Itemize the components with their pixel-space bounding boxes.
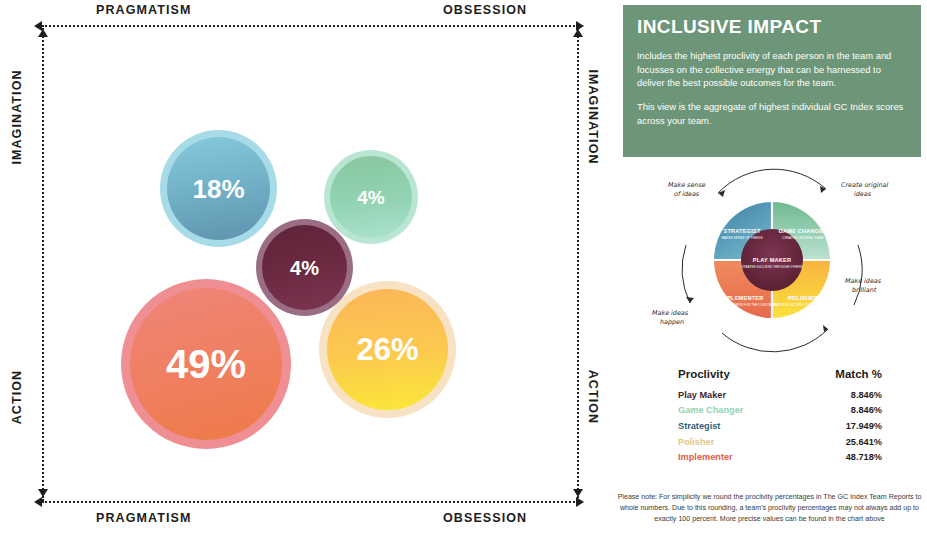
wheel-label-game-changer: GAME CHANGER — [778, 228, 827, 234]
row-match-game-changer: 8.846% — [794, 403, 888, 419]
table-row: Implementer 48.718% — [678, 449, 888, 465]
bubble-game-changer[interactable]: 4% — [324, 150, 418, 244]
arrowhead-left-icon — [686, 297, 694, 303]
column-header-proclivity: Proclivity — [678, 368, 794, 387]
arrow-top-right-vertical-icon — [573, 29, 583, 37]
axis-label-top-left: PRAGMATISM — [96, 3, 192, 17]
wheel-sub-play-maker: CREATES SUCCESS THROUGH OTHERS — [741, 265, 803, 269]
bubble-polisher[interactable]: 26% — [319, 281, 456, 418]
right-sidebar: INCLUSIVE IMPACT Includes the highest pr… — [612, 0, 927, 538]
proclivity-match-table: Proclivity Match % Play Maker 8.846% Gam… — [678, 368, 888, 465]
frame-right-dotted-line — [577, 25, 579, 501]
row-name-strategist: Strategist — [678, 418, 794, 434]
arrowhead-top-left-icon — [718, 190, 725, 197]
arrow-bottom-right-horizontal-icon — [576, 497, 584, 507]
bubble-strategist[interactable]: 18% — [160, 130, 277, 247]
bubble-quadrant-chart: PRAGMATISM OBSESSION PRAGMATISM OBSESSIO… — [0, 0, 610, 538]
gc-index-team-report-page: PRAGMATISM OBSESSION PRAGMATISM OBSESSIO… — [0, 0, 927, 538]
wheel-label-play-maker: PLAY MAKER — [753, 257, 791, 263]
callout-top-left-line1: Make sense — [668, 181, 706, 189]
table-row: Game Changer 8.846% — [678, 403, 888, 419]
row-match-play-maker: 8.846% — [794, 387, 888, 403]
wheel-sub-polisher: CREATES A CULTURE OF BEING PROUD OF — [769, 303, 836, 307]
bubble-implementer-label: 49% — [166, 344, 246, 384]
arrow-top-left-vertical-icon — [38, 29, 48, 37]
callout-top-right-line2: ideas — [854, 190, 872, 198]
callout-bottom-left-line2: happen — [660, 318, 684, 326]
wheel-label-implementer: IMPLEMENTER — [721, 295, 764, 301]
axis-label-right-top: IMAGINATION — [586, 67, 600, 167]
row-name-play-maker: Play Maker — [678, 387, 794, 403]
bubble-play-maker-label: 4% — [290, 258, 319, 278]
gc-index-wheel-diagram: STRATEGIST MAKES SENSE OF THINGS GAME CH… — [626, 163, 916, 355]
wheel-label-polisher: POLISHER — [788, 295, 818, 301]
arrow-bottom-right-vertical-icon — [573, 489, 583, 497]
arc-top — [718, 169, 826, 193]
bubble-play-maker[interactable]: 4% — [256, 219, 353, 316]
row-match-strategist: 17.949% — [794, 418, 888, 434]
table-row: Play Maker 8.846% — [678, 387, 888, 403]
axis-label-left-top: IMAGINATION — [10, 67, 24, 167]
table-row: Strategist 17.949% — [678, 418, 888, 434]
frame-top-dotted-line — [42, 25, 578, 27]
arc-right — [854, 245, 862, 305]
callout-bottom-left-line1: Make ideas — [652, 309, 689, 317]
callout-bottom-right-line2: brilliant — [852, 286, 877, 294]
arrow-bottom-left-vertical-icon — [38, 489, 48, 497]
row-name-implementer: Implementer — [678, 449, 794, 465]
wheel-label-strategist: STRATEGIST — [723, 228, 760, 234]
table-row: Polisher 25.641% — [678, 434, 888, 450]
axis-label-bottom-left: PRAGMATISM — [96, 511, 192, 525]
inclusive-impact-paragraph-1: Includes the highest proclivity of each … — [637, 49, 907, 90]
bubble-polisher-label: 26% — [356, 334, 418, 365]
wheel-sub-implementer: BUILDS AND DELIVERS FOR THE CUSTOMER — [707, 303, 777, 307]
inclusive-impact-paragraph-2: This view is the aggregate of highest in… — [637, 100, 907, 127]
callout-top-left-line2: of ideas — [674, 190, 700, 198]
footnote-text: Please note: For simplicity we round the… — [612, 492, 927, 525]
row-match-implementer: 48.718% — [794, 449, 888, 465]
arc-left — [682, 245, 690, 303]
axis-label-bottom-right: OBSESSION — [443, 511, 527, 525]
bubble-game-changer-label: 4% — [357, 188, 384, 207]
axis-label-right-bottom: ACTION — [586, 347, 600, 447]
row-name-polisher: Polisher — [678, 434, 794, 450]
axis-label-top-right: OBSESSION — [443, 3, 527, 17]
axis-label-left-bottom: ACTION — [10, 347, 24, 447]
row-name-game-changer: Game Changer — [678, 403, 794, 419]
frame-left-dotted-line — [42, 25, 44, 501]
arc-bottom — [722, 329, 828, 352]
table-header-row: Proclivity Match % — [678, 368, 888, 387]
callout-bottom-right-line1: Make ideas — [845, 277, 882, 285]
inclusive-impact-title: INCLUSIVE IMPACT — [637, 16, 907, 38]
inclusive-impact-card: INCLUSIVE IMPACT Includes the highest pr… — [623, 5, 921, 157]
arrow-bottom-left-horizontal-icon — [34, 497, 42, 507]
column-header-match: Match % — [794, 368, 888, 387]
gc-wheel-svg: STRATEGIST MAKES SENSE OF THINGS GAME CH… — [626, 163, 916, 355]
row-match-polisher: 25.641% — [794, 434, 888, 450]
callout-top-right-line1: Create original — [841, 181, 889, 189]
wheel-sub-game-changer: CREATES ORIGINAL IDEAS — [782, 236, 823, 240]
bubble-implementer[interactable]: 49% — [121, 279, 291, 449]
wheel-sub-strategist: MAKES SENSE OF THINGS — [721, 236, 762, 240]
bubble-strategist-label: 18% — [192, 176, 244, 202]
frame-bottom-dotted-line — [42, 501, 578, 503]
